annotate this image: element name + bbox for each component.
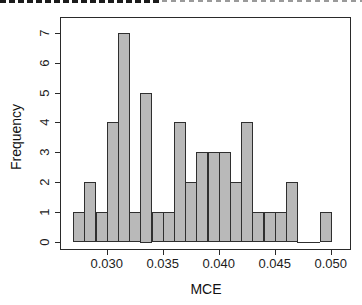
x-axis-tick bbox=[219, 250, 220, 255]
top-edge-artifact-dark bbox=[0, 0, 162, 3]
y-axis-tick bbox=[55, 242, 60, 243]
x-axis-tick-label: 0.050 bbox=[309, 256, 353, 271]
y-axis-tick-label: 0 bbox=[38, 227, 52, 257]
y-axis-tick-label: 5 bbox=[38, 78, 52, 108]
y-axis-tick-label: 2 bbox=[38, 167, 52, 197]
y-axis-tick-label: 7 bbox=[38, 18, 52, 48]
y-axis-tick bbox=[55, 152, 60, 153]
y-axis-tick bbox=[55, 33, 60, 34]
y-axis-title: Frequency bbox=[8, 104, 24, 170]
x-axis-tick bbox=[331, 250, 332, 255]
y-axis-tick bbox=[55, 122, 60, 123]
x-axis-tick-label: 0.035 bbox=[141, 256, 185, 271]
histogram-bar bbox=[320, 212, 332, 243]
x-axis-title: MCE bbox=[190, 281, 221, 297]
x-axis-tick-label: 0.040 bbox=[197, 256, 241, 271]
top-edge-artifact-light bbox=[162, 0, 362, 2]
x-axis-tick-label: 0.045 bbox=[253, 256, 297, 271]
y-axis-tick bbox=[55, 182, 60, 183]
x-axis-tick bbox=[107, 250, 108, 255]
x-axis-tick-label: 0.030 bbox=[85, 256, 129, 271]
x-axis-tick bbox=[163, 250, 164, 255]
histogram-bar bbox=[286, 182, 298, 243]
y-axis-tick-label: 4 bbox=[38, 107, 52, 137]
y-axis-tick-label: 3 bbox=[38, 137, 52, 167]
y-axis-tick bbox=[55, 212, 60, 213]
x-axis-tick bbox=[275, 250, 276, 255]
y-axis-tick-label: 6 bbox=[38, 48, 52, 78]
r-histogram-figure: 0.0300.0350.0400.0450.050 01234567 Frequ… bbox=[0, 0, 362, 305]
y-axis-tick bbox=[55, 93, 60, 94]
y-axis-tick bbox=[55, 63, 60, 64]
y-axis-tick-label: 1 bbox=[38, 197, 52, 227]
